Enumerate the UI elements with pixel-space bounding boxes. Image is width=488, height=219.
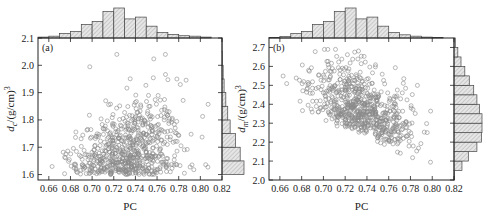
x-tick-label: 0.78 bbox=[170, 183, 188, 194]
data-point bbox=[118, 123, 122, 127]
data-point bbox=[121, 117, 125, 121]
data-point bbox=[115, 52, 119, 56]
histogram-bar bbox=[454, 66, 465, 75]
x-tick-label: 0.66 bbox=[40, 183, 58, 194]
y-axis-label: dc/(g/cm)3 bbox=[3, 86, 19, 131]
panel-label: (a) bbox=[42, 42, 53, 54]
histogram-bar bbox=[454, 142, 477, 151]
data-point bbox=[308, 91, 312, 95]
data-point bbox=[301, 89, 305, 93]
data-point bbox=[345, 53, 349, 57]
data-point bbox=[163, 52, 167, 56]
data-point bbox=[204, 163, 208, 167]
histogram-bar bbox=[389, 33, 400, 38]
data-point bbox=[201, 114, 205, 118]
data-point bbox=[362, 54, 366, 58]
data-point bbox=[134, 107, 138, 111]
data-point bbox=[324, 119, 328, 123]
histogram-bar bbox=[70, 32, 81, 38]
data-point bbox=[175, 77, 179, 81]
data-point bbox=[81, 133, 85, 137]
data-point bbox=[133, 101, 137, 105]
data-point bbox=[132, 103, 136, 107]
histogram-bar bbox=[345, 8, 356, 38]
data-point bbox=[168, 170, 172, 174]
data-point bbox=[313, 50, 317, 54]
data-point bbox=[96, 146, 100, 150]
data-point bbox=[327, 97, 331, 101]
data-point bbox=[101, 132, 105, 136]
data-point bbox=[181, 98, 185, 102]
data-point bbox=[175, 149, 179, 153]
data-point bbox=[98, 144, 102, 148]
data-point bbox=[126, 105, 130, 109]
data-point bbox=[358, 70, 362, 74]
data-point bbox=[366, 77, 370, 81]
data-point bbox=[391, 142, 395, 146]
histogram-bar bbox=[454, 57, 461, 66]
data-point bbox=[422, 130, 426, 134]
histogram-bar bbox=[135, 17, 146, 38]
data-point bbox=[415, 83, 419, 87]
x-tick-label: 0.70 bbox=[315, 183, 333, 194]
data-point bbox=[395, 94, 399, 98]
data-point bbox=[69, 164, 73, 168]
scatter-points bbox=[50, 52, 210, 176]
histogram-bar bbox=[302, 32, 313, 38]
data-point bbox=[335, 124, 339, 128]
data-point bbox=[380, 72, 384, 76]
y-axis-label: dm/(g/cm)3 bbox=[234, 85, 250, 133]
right-histogram bbox=[454, 38, 482, 180]
data-point bbox=[145, 100, 149, 104]
x-tick-label: 0.72 bbox=[105, 183, 123, 194]
y-tick-label: 1.9 bbox=[22, 87, 35, 98]
data-point bbox=[134, 93, 138, 97]
data-point bbox=[300, 63, 304, 67]
histogram-bar bbox=[168, 34, 179, 38]
data-point bbox=[87, 113, 91, 117]
data-point bbox=[124, 133, 128, 137]
data-point bbox=[407, 139, 411, 143]
data-point bbox=[338, 78, 342, 82]
data-point bbox=[429, 160, 433, 164]
data-point bbox=[74, 135, 78, 139]
data-point bbox=[182, 171, 186, 175]
data-point bbox=[410, 93, 414, 97]
data-point bbox=[165, 143, 169, 147]
data-point bbox=[152, 57, 156, 61]
data-point bbox=[179, 144, 183, 148]
data-point bbox=[114, 155, 118, 159]
data-point bbox=[128, 77, 132, 81]
data-point bbox=[138, 109, 142, 113]
data-point bbox=[298, 99, 302, 103]
data-point bbox=[200, 135, 204, 139]
data-point bbox=[401, 81, 405, 85]
data-point bbox=[63, 172, 67, 176]
y-tick-label: 2.4 bbox=[253, 99, 266, 110]
data-point bbox=[306, 103, 310, 107]
data-point bbox=[386, 91, 390, 95]
data-point bbox=[395, 88, 399, 92]
data-point bbox=[382, 142, 386, 146]
data-point bbox=[322, 79, 326, 83]
histogram-bar bbox=[454, 123, 482, 132]
data-point bbox=[79, 168, 83, 172]
data-point bbox=[172, 158, 176, 162]
x-tick-label: 0.74 bbox=[358, 183, 376, 194]
data-point bbox=[173, 131, 177, 135]
data-point bbox=[314, 104, 318, 108]
histogram-bar bbox=[222, 106, 228, 120]
x-tick-label: 0.70 bbox=[83, 183, 101, 194]
histogram-bar bbox=[454, 114, 482, 123]
data-point bbox=[327, 65, 331, 69]
data-point bbox=[173, 154, 177, 158]
data-point bbox=[88, 136, 92, 140]
data-point bbox=[165, 170, 169, 174]
data-point bbox=[342, 73, 346, 77]
data-point bbox=[356, 57, 360, 61]
data-point bbox=[410, 135, 414, 139]
data-point bbox=[351, 57, 355, 61]
panel-b: 0.660.680.700.720.740.760.780.800.82PC2.… bbox=[234, 8, 482, 212]
data-point bbox=[156, 94, 160, 98]
data-point bbox=[79, 144, 83, 148]
